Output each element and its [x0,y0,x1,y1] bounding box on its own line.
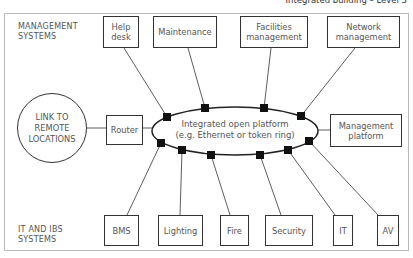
facilities-management-box: Facilities management [240,16,308,48]
help-desk-box: Help desk [103,16,139,48]
network-management-box: Network management [327,16,400,48]
fire-box: Fire [220,215,249,246]
lighting-box: Lighting [158,215,203,246]
router-box: Router [106,115,143,145]
it-ibs-systems-label: IT AND IBS SYSTEMS [18,225,63,245]
maintenance-box: Maintenance [153,16,217,48]
platform-label: Integrated open platform (e.g. Ethernet … [160,119,310,141]
security-box: Security [265,215,313,246]
management-systems-label: MANAGEMENT SYSTEMS [18,22,78,42]
bms-box: BMS [104,215,139,246]
it-box: IT [333,215,353,246]
remote-locations-circle: LINK TO REMOTE LOCATIONS [17,93,87,163]
management-platform-box: Management platform [330,114,402,147]
av-box: AV [377,215,399,246]
